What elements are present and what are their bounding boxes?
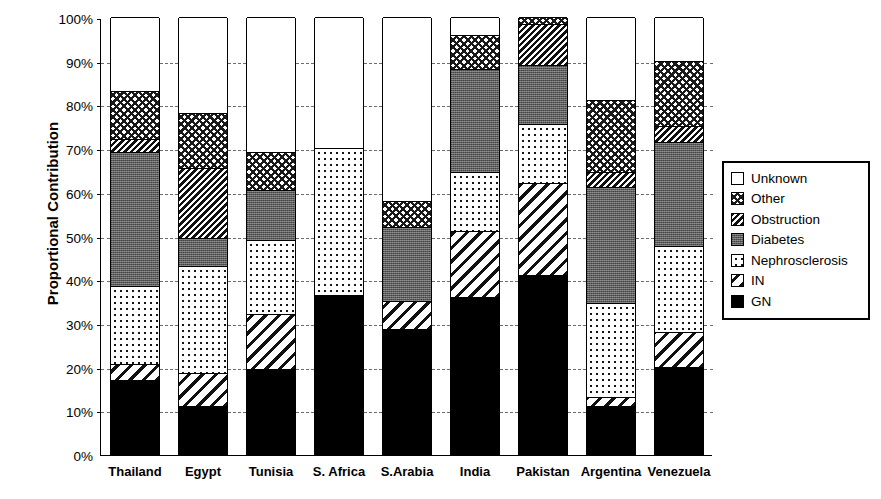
bar-segment-unknown[interactable] bbox=[587, 17, 635, 100]
bar-segment-nephrosclerosis[interactable] bbox=[247, 240, 295, 314]
gridline bbox=[704, 150, 713, 151]
gridline bbox=[228, 238, 246, 239]
bar-segment-other[interactable] bbox=[247, 152, 295, 189]
bar-s-africa[interactable] bbox=[314, 18, 364, 455]
bar-segment-unknown[interactable] bbox=[451, 17, 499, 34]
bar-segment-nephrosclerosis[interactable] bbox=[315, 148, 363, 294]
gridline bbox=[228, 150, 246, 151]
bar-segment-in[interactable] bbox=[383, 301, 431, 329]
gridline bbox=[160, 150, 178, 151]
legend-item-in[interactable]: IN bbox=[731, 271, 862, 292]
bar-segment-diabetes[interactable] bbox=[383, 227, 431, 301]
x-axis-tick-label: India bbox=[441, 464, 509, 479]
legend-item-other[interactable]: Other bbox=[731, 189, 862, 210]
bar-segment-gn[interactable] bbox=[179, 406, 227, 454]
gridline bbox=[500, 106, 518, 107]
legend-item-nephrosclerosis[interactable]: Nephrosclerosis bbox=[731, 250, 862, 271]
gridline bbox=[704, 369, 713, 370]
bar-segment-in[interactable] bbox=[519, 183, 567, 275]
bar-segment-unknown[interactable] bbox=[111, 17, 159, 91]
bar-segment-in[interactable] bbox=[655, 332, 703, 367]
bar-segment-nephrosclerosis[interactable] bbox=[655, 246, 703, 331]
bar-segment-other[interactable] bbox=[519, 17, 567, 24]
bar-s-arabia[interactable] bbox=[382, 18, 432, 455]
bar-argentina[interactable] bbox=[586, 18, 636, 455]
bar-segment-other[interactable] bbox=[655, 61, 703, 127]
plot-inner bbox=[101, 19, 712, 455]
bar-segment-other[interactable] bbox=[451, 35, 499, 70]
bar-egypt[interactable] bbox=[178, 18, 228, 455]
gridline bbox=[636, 369, 654, 370]
bar-segment-unknown[interactable] bbox=[247, 17, 295, 152]
bar-segment-gn[interactable] bbox=[315, 295, 363, 455]
bar-segment-diabetes[interactable] bbox=[451, 69, 499, 172]
gridline bbox=[101, 194, 110, 195]
gridline bbox=[568, 150, 586, 151]
bar-segment-diabetes[interactable] bbox=[247, 190, 295, 240]
bar-segment-in[interactable] bbox=[179, 373, 227, 406]
bar-segment-obstruction[interactable] bbox=[519, 24, 567, 66]
bar-segment-unknown[interactable] bbox=[383, 17, 431, 201]
bar-segment-in[interactable] bbox=[247, 314, 295, 369]
gridline bbox=[228, 106, 246, 107]
bar-tunisia[interactable] bbox=[246, 18, 296, 455]
y-axis-tick-label: 30% bbox=[66, 317, 101, 332]
bar-segment-unknown[interactable] bbox=[315, 17, 363, 148]
gridline bbox=[296, 106, 314, 107]
y-axis-tick-label: 20% bbox=[66, 361, 101, 376]
bar-thailand[interactable] bbox=[110, 18, 160, 455]
y-axis-tick-mark bbox=[97, 238, 101, 239]
bar-segment-diabetes[interactable] bbox=[655, 142, 703, 247]
gridline bbox=[296, 281, 314, 282]
bar-segment-other[interactable] bbox=[179, 113, 227, 168]
bar-pakistan[interactable] bbox=[518, 18, 568, 455]
bar-segment-nephrosclerosis[interactable] bbox=[587, 303, 635, 397]
bar-segment-nephrosclerosis[interactable] bbox=[451, 172, 499, 231]
bar-segment-unknown[interactable] bbox=[179, 17, 227, 113]
gridline bbox=[296, 194, 314, 195]
gridline bbox=[500, 281, 518, 282]
bar-segment-gn[interactable] bbox=[383, 329, 431, 454]
bar-segment-nephrosclerosis[interactable] bbox=[519, 124, 567, 183]
bar-segment-diabetes[interactable] bbox=[179, 238, 227, 266]
gridline bbox=[364, 63, 382, 64]
gridline bbox=[101, 238, 110, 239]
legend-item-gn[interactable]: GN bbox=[731, 291, 862, 312]
bar-segment-gn[interactable] bbox=[587, 406, 635, 454]
bar-segment-obstruction[interactable] bbox=[179, 168, 227, 238]
bar-segment-diabetes[interactable] bbox=[519, 65, 567, 124]
bar-segment-gn[interactable] bbox=[111, 380, 159, 454]
gridline bbox=[636, 412, 654, 413]
gridline bbox=[296, 63, 314, 64]
legend-item-label: IN bbox=[751, 274, 765, 288]
bar-segment-nephrosclerosis[interactable] bbox=[111, 286, 159, 365]
legend-item-diabetes[interactable]: Diabetes bbox=[731, 230, 862, 251]
bar-segment-unknown[interactable] bbox=[655, 17, 703, 61]
bar-segment-obstruction[interactable] bbox=[111, 139, 159, 152]
legend-item-obstruction[interactable]: Obstruction bbox=[731, 209, 862, 230]
bar-segment-obstruction[interactable] bbox=[655, 126, 703, 141]
legend-item-unknown[interactable]: Unknown bbox=[731, 168, 862, 189]
bar-segment-in[interactable] bbox=[111, 364, 159, 379]
bar-segment-other[interactable] bbox=[383, 201, 431, 227]
bar-segment-gn[interactable] bbox=[655, 367, 703, 454]
gridline bbox=[636, 63, 654, 64]
bar-segment-gn[interactable] bbox=[247, 369, 295, 454]
bar-segment-other[interactable] bbox=[111, 91, 159, 139]
gridline bbox=[432, 194, 450, 195]
x-axis-tick-label: Egypt bbox=[169, 464, 237, 479]
bar-segment-in[interactable] bbox=[451, 231, 499, 297]
bar-segment-obstruction[interactable] bbox=[587, 172, 635, 187]
bar-segment-diabetes[interactable] bbox=[587, 187, 635, 303]
bar-india[interactable] bbox=[450, 18, 500, 455]
legend-item-label: Unknown bbox=[751, 172, 807, 186]
bar-segment-in[interactable] bbox=[587, 397, 635, 406]
bar-segment-other[interactable] bbox=[587, 100, 635, 172]
bar-segment-gn[interactable] bbox=[519, 275, 567, 454]
bar-segment-gn[interactable] bbox=[451, 297, 499, 454]
gridline bbox=[160, 325, 178, 326]
bar-venezuela[interactable] bbox=[654, 18, 704, 455]
bar-segment-diabetes[interactable] bbox=[111, 152, 159, 285]
y-axis-tick-label: 90% bbox=[66, 55, 101, 70]
bar-segment-nephrosclerosis[interactable] bbox=[179, 266, 227, 373]
